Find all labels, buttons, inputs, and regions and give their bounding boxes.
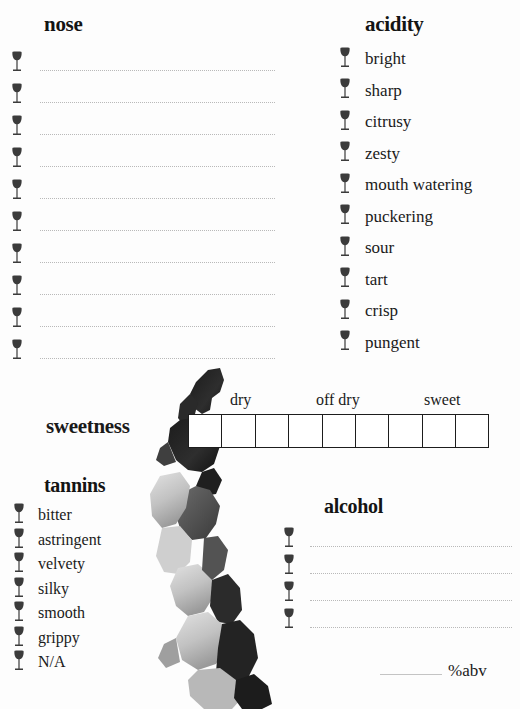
sweetness-cell[interactable] [322, 414, 355, 448]
nose-write-line[interactable] [40, 294, 275, 295]
nose-section: nose [10, 12, 275, 363]
acidity-option-list: bright sharp citrusy [338, 43, 518, 358]
tannins-option-grippy[interactable]: grippy [12, 626, 162, 651]
wine-glass-icon[interactable] [12, 626, 26, 650]
wine-glass-icon[interactable] [338, 236, 352, 260]
wine-glass-icon[interactable] [282, 581, 296, 605]
tannins-option-velvety[interactable]: velvety [12, 552, 162, 577]
nose-write-line[interactable] [40, 198, 275, 199]
wine-glass-icon[interactable] [338, 330, 352, 354]
wine-glass-icon[interactable] [338, 204, 352, 228]
wine-glass-icon[interactable] [12, 528, 26, 552]
alcohol-line-row[interactable] [282, 605, 512, 632]
alcohol-line-row[interactable] [282, 578, 512, 605]
nose-write-line[interactable] [40, 326, 275, 327]
nose-write-line[interactable] [40, 166, 275, 167]
acidity-option-sharp[interactable]: sharp [338, 75, 518, 107]
tasting-note-page: nose [0, 0, 520, 709]
abv-unit-label: %abv [448, 662, 487, 679]
nose-line-row[interactable] [10, 75, 275, 107]
acidity-option-label: sharp [365, 82, 402, 99]
sweetness-cell[interactable] [188, 414, 221, 448]
tannins-option-silky[interactable]: silky [12, 577, 162, 602]
wine-glass-icon[interactable] [12, 577, 26, 601]
acidity-option-mouth-watering[interactable]: mouth watering [338, 169, 518, 201]
acidity-option-citrusy[interactable]: citrusy [338, 106, 518, 138]
wine-glass-icon[interactable] [10, 211, 24, 235]
alcohol-write-line[interactable] [310, 546, 512, 547]
acidity-option-sour[interactable]: sour [338, 232, 518, 264]
sweetness-tick-off-dry: off dry [316, 392, 360, 408]
sweetness-tick-sweet: sweet [424, 392, 460, 408]
acidity-option-label: pungent [365, 334, 420, 351]
sweetness-cell[interactable] [355, 414, 388, 448]
sweetness-cell[interactable] [388, 414, 421, 448]
acidity-option-crisp[interactable]: crisp [338, 295, 518, 327]
nose-line-row[interactable] [10, 171, 275, 203]
wine-glass-icon[interactable] [338, 267, 352, 291]
sweetness-section: sweetness dry off dry sweet [0, 392, 520, 462]
alcohol-line-row[interactable] [282, 524, 512, 551]
wine-glass-icon[interactable] [10, 243, 24, 267]
nose-line-list [10, 43, 275, 363]
wine-glass-icon[interactable] [338, 110, 352, 134]
wine-glass-icon[interactable] [12, 552, 26, 576]
alcohol-write-line[interactable] [310, 573, 512, 574]
wine-glass-icon[interactable] [338, 47, 352, 71]
wine-glass-icon[interactable] [12, 601, 26, 625]
nose-write-line[interactable] [40, 230, 275, 231]
acidity-option-zesty[interactable]: zesty [338, 138, 518, 170]
tannins-option-label: velvety [38, 556, 85, 572]
nose-write-line[interactable] [40, 70, 275, 71]
wine-glass-icon[interactable] [12, 650, 26, 674]
nose-write-line[interactable] [40, 134, 275, 135]
wine-glass-icon[interactable] [282, 608, 296, 632]
tannins-option-label: silky [38, 581, 69, 597]
wine-glass-icon[interactable] [338, 141, 352, 165]
acidity-option-tart[interactable]: tart [338, 264, 518, 296]
nose-write-line[interactable] [40, 102, 275, 103]
sweetness-cell[interactable] [288, 414, 321, 448]
alcohol-line-row[interactable] [282, 551, 512, 578]
wine-glass-icon[interactable] [10, 115, 24, 139]
acidity-option-bright[interactable]: bright [338, 43, 518, 75]
wine-glass-icon[interactable] [10, 307, 24, 331]
wine-glass-icon[interactable] [282, 527, 296, 551]
nose-write-line[interactable] [40, 262, 275, 263]
tannins-option-astringent[interactable]: astringent [12, 528, 162, 553]
wine-glass-icon[interactable] [338, 299, 352, 323]
nose-line-row[interactable] [10, 235, 275, 267]
sweetness-cell[interactable] [422, 414, 455, 448]
nose-line-row[interactable] [10, 203, 275, 235]
wine-glass-icon[interactable] [282, 554, 296, 578]
wine-glass-icon[interactable] [10, 339, 24, 363]
tannins-option-na[interactable]: N/A [12, 650, 162, 675]
nose-line-row[interactable] [10, 139, 275, 171]
nose-line-row[interactable] [10, 331, 275, 363]
acidity-option-puckering[interactable]: puckering [338, 201, 518, 233]
nose-line-row[interactable] [10, 299, 275, 331]
sweetness-cell[interactable] [455, 414, 488, 448]
nose-write-line[interactable] [40, 358, 275, 359]
wine-glass-icon[interactable] [12, 503, 26, 527]
tannins-option-smooth[interactable]: smooth [12, 601, 162, 626]
alcohol-write-line[interactable] [310, 600, 512, 601]
sweetness-cell[interactable] [221, 414, 254, 448]
abv-input[interactable] [380, 674, 442, 675]
wine-glass-icon[interactable] [10, 83, 24, 107]
wine-glass-icon[interactable] [10, 179, 24, 203]
nose-line-row[interactable] [10, 43, 275, 75]
wine-glass-icon[interactable] [10, 51, 24, 75]
wine-glass-icon[interactable] [10, 275, 24, 299]
acidity-option-pungent[interactable]: pungent [338, 327, 518, 359]
acidity-section: acidity bright sharp [338, 12, 518, 358]
acidity-option-label: bright [365, 50, 406, 67]
nose-line-row[interactable] [10, 267, 275, 299]
wine-glass-icon[interactable] [10, 147, 24, 171]
wine-glass-icon[interactable] [338, 173, 352, 197]
wine-glass-icon[interactable] [338, 78, 352, 102]
nose-line-row[interactable] [10, 107, 275, 139]
tannins-option-bitter[interactable]: bitter [12, 503, 162, 528]
sweetness-cell[interactable] [255, 414, 288, 448]
alcohol-write-line[interactable] [310, 627, 512, 628]
